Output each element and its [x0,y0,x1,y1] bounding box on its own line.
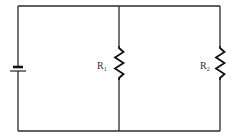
circuit-diagram: R1 R2 [0,0,238,140]
battery-icon [10,67,26,71]
r1-subscript: 1 [104,66,107,72]
r2-subscript: 2 [207,66,210,72]
resistor-r2-label: R2 [200,60,210,72]
resistor-r2-icon [216,46,225,80]
resistor-r1-label: R1 [97,60,107,72]
resistor-r1-icon [115,46,124,80]
